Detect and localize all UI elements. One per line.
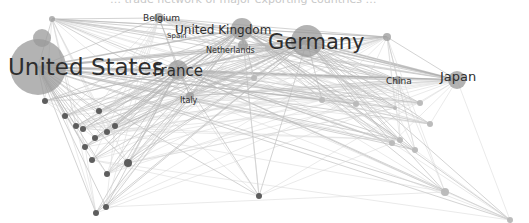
node-n-a <box>42 98 48 104</box>
label-united-kingdom: United Kingdom <box>175 24 271 36</box>
node-n-z <box>353 101 359 107</box>
node-n-m <box>93 210 99 216</box>
node-n-p <box>441 188 449 196</box>
label-belgium: Belgium <box>143 14 180 23</box>
label-france: France <box>153 64 203 79</box>
label-united-states: United States <box>8 56 164 79</box>
label-netherlands: Netherlands <box>206 47 255 55</box>
node-us-blob <box>33 29 51 47</box>
node-n-u <box>417 100 423 106</box>
node-n-j <box>89 157 95 163</box>
node-n-n <box>103 204 109 210</box>
node-n-topleft <box>49 16 55 22</box>
node-n-d <box>80 126 86 132</box>
edge <box>457 80 510 220</box>
node-n-c <box>73 123 79 129</box>
label-japan: Japan <box>440 70 476 83</box>
node-n-f <box>112 123 118 129</box>
node-n-o <box>256 193 262 199</box>
label-china: China <box>386 77 412 86</box>
node-n-e <box>96 108 102 114</box>
node-n-top-right <box>383 33 391 41</box>
node-n-v <box>393 106 397 110</box>
edge <box>307 41 445 192</box>
node-n-i <box>82 144 88 150</box>
edge <box>106 192 445 207</box>
node-n-q <box>507 217 513 223</box>
node-n-t <box>397 137 403 143</box>
node-n-b <box>62 113 68 119</box>
node-n-x <box>319 97 325 103</box>
node-n-r <box>412 147 418 153</box>
node-n-s <box>427 121 433 127</box>
label-spain: Spain <box>167 33 187 40</box>
edge <box>99 111 107 132</box>
chart-title-fragment: … trade network of major exporting count… <box>110 0 377 6</box>
node-n-w <box>389 140 395 146</box>
edge <box>395 108 415 150</box>
edge <box>45 101 115 126</box>
edge <box>92 160 259 196</box>
label-germany: Germany <box>268 32 365 53</box>
label-italy: Italy <box>180 97 197 105</box>
edge <box>259 41 307 196</box>
node-n-aa <box>251 75 257 81</box>
node-n-g <box>104 129 110 135</box>
node-n-h <box>92 135 98 141</box>
node-n-k <box>124 159 132 167</box>
node-n-l <box>104 171 110 177</box>
